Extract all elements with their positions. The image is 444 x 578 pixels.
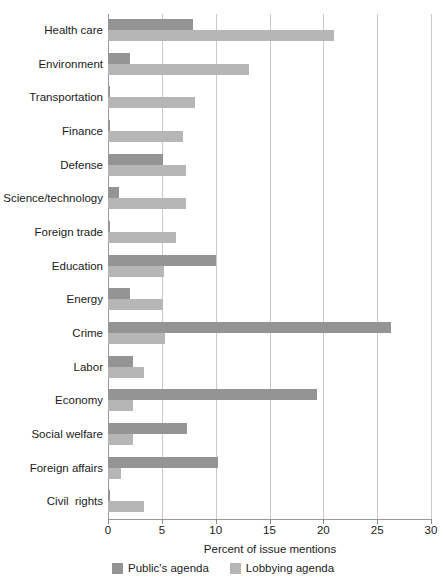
bar-group: [108, 120, 431, 142]
bar-lobbying-agenda: [108, 165, 186, 176]
bar-group: [108, 187, 431, 209]
bar-group: [108, 154, 431, 176]
category-label: Education: [0, 260, 103, 272]
bar-public-agenda: [108, 221, 110, 232]
category-axis-labels: Health careEnvironmentTransportationFina…: [0, 14, 103, 519]
category-label: Foreign affairs: [0, 462, 103, 474]
legend-item-public-agenda: Public's agenda: [112, 562, 209, 574]
bar-lobbying-agenda: [108, 501, 144, 512]
legend-swatch-icon-public-agenda: [112, 563, 123, 574]
bar-public-agenda: [108, 423, 187, 434]
gridline-30: [431, 14, 432, 519]
bar-group: [108, 389, 431, 411]
bar-group: [108, 86, 431, 108]
bar-lobbying-agenda: [108, 299, 163, 310]
legend-label-public-agenda: Public's agenda: [128, 562, 209, 574]
bar-lobbying-agenda: [108, 30, 334, 41]
bar-public-agenda: [108, 457, 218, 468]
x-tick-label-25: 25: [357, 524, 397, 537]
category-label: Science/technology: [0, 192, 103, 204]
category-label: Finance: [0, 125, 103, 137]
legend-swatch-icon-lobbying-agenda: [230, 563, 241, 574]
bar-lobbying-agenda: [108, 131, 183, 142]
bar-lobbying-agenda: [108, 198, 186, 209]
bar-group: [108, 19, 431, 41]
bar-public-agenda: [108, 86, 110, 97]
x-tick-label-15: 15: [250, 524, 290, 537]
category-label: Crime: [0, 327, 103, 339]
x-tick-label-5: 5: [142, 524, 182, 537]
bar-group: [108, 322, 431, 344]
category-label: Social welfare: [0, 428, 103, 440]
bar-lobbying-agenda: [108, 434, 133, 445]
category-label: Energy: [0, 293, 103, 305]
bar-public-agenda: [108, 19, 193, 30]
x-tick-label-30: 30: [411, 524, 444, 537]
x-axis-title: Percent of issue mentions: [108, 543, 432, 555]
bar-lobbying-agenda: [108, 97, 195, 108]
bar-group: [108, 255, 431, 277]
bar-public-agenda: [108, 288, 130, 299]
bar-public-agenda: [108, 322, 391, 333]
bar-public-agenda: [108, 120, 110, 131]
bar-public-agenda: [108, 490, 110, 501]
chart-legend: Public's agenda Lobbying agenda: [112, 562, 348, 574]
bar-group: [108, 490, 431, 512]
category-label: Foreign trade: [0, 226, 103, 238]
category-label: Environment: [0, 58, 103, 70]
bar-public-agenda: [108, 187, 119, 198]
bar-group: [108, 288, 431, 310]
x-tick-label-20: 20: [303, 524, 343, 537]
bar-lobbying-agenda: [108, 367, 144, 378]
bar-group: [108, 221, 431, 243]
plot-area: [108, 14, 431, 519]
bar-public-agenda: [108, 154, 163, 165]
bar-lobbying-agenda: [108, 333, 165, 344]
bar-group: [108, 53, 431, 75]
bar-lobbying-agenda: [108, 468, 121, 479]
category-label: Health care: [0, 24, 103, 36]
bar-lobbying-agenda: [108, 266, 164, 277]
x-tick-label-0: 0: [88, 524, 128, 537]
category-label: Economy: [0, 394, 103, 406]
bar-group: [108, 457, 431, 479]
bar-lobbying-agenda: [108, 64, 249, 75]
bar-group: [108, 356, 431, 378]
bar-public-agenda: [108, 389, 317, 400]
legend-label-lobbying-agenda: Lobbying agenda: [246, 562, 334, 574]
bar-lobbying-agenda: [108, 232, 176, 243]
bar-public-agenda: [108, 356, 133, 367]
category-label: Civil rights: [0, 495, 103, 507]
bar-lobbying-agenda: [108, 400, 133, 411]
legend-item-lobbying-agenda: Lobbying agenda: [230, 562, 334, 574]
category-label: Labor: [0, 361, 103, 373]
bar-public-agenda: [108, 255, 216, 266]
category-label: Transportation: [0, 91, 103, 103]
bar-public-agenda: [108, 53, 130, 64]
bar-group: [108, 423, 431, 445]
category-label: Defense: [0, 159, 103, 171]
horizontal-bar-chart: Health careEnvironmentTransportationFina…: [0, 0, 444, 578]
x-tick-label-10: 10: [196, 524, 236, 537]
